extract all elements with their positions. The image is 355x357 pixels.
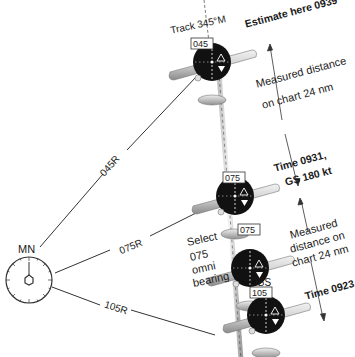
aircraft-position-2: [192, 177, 279, 239]
obs-value-4: 105: [252, 287, 267, 299]
aircraft-position-1: [169, 43, 256, 105]
vor-station: [6, 257, 52, 303]
obs-value-1: 045: [193, 38, 208, 50]
obs-value-3: 075: [240, 224, 255, 236]
radial-lines: [40, 77, 215, 335]
station-label: MN: [18, 243, 35, 255]
obs-value-2: 075: [225, 172, 240, 184]
